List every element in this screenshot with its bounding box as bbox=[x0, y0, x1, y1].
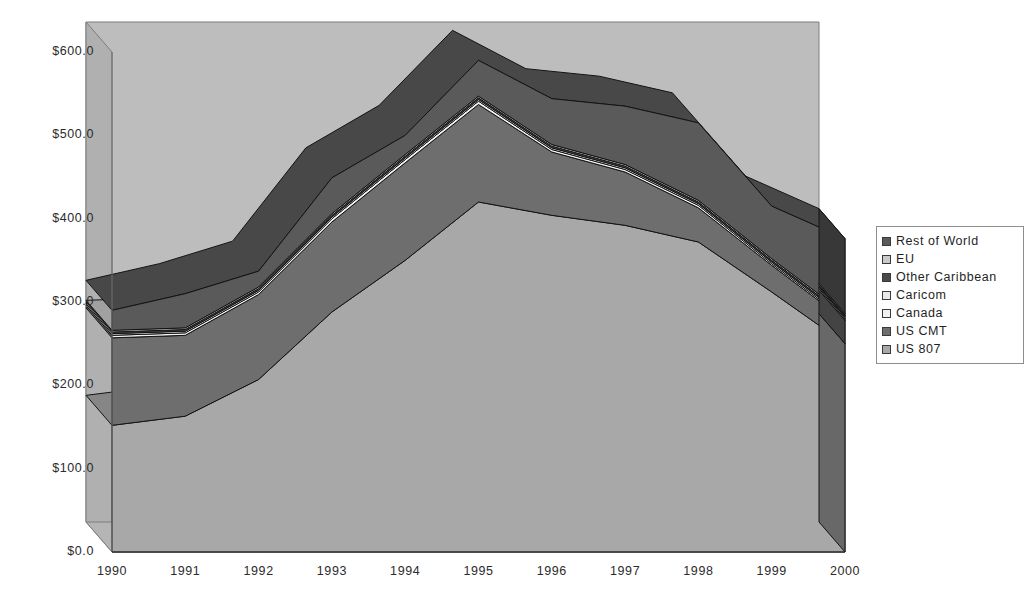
legend-swatch-icon bbox=[882, 327, 891, 336]
y-tick-label: $400.0 bbox=[18, 211, 94, 225]
x-tick-label: 1999 bbox=[742, 564, 802, 578]
y-tick-label: $300.0 bbox=[18, 294, 94, 308]
legend-swatch-icon bbox=[882, 273, 891, 282]
x-tick-label: 1993 bbox=[302, 564, 362, 578]
legend-label: Canada bbox=[896, 306, 943, 320]
legend-item[interactable]: US 807 bbox=[882, 340, 1019, 358]
legend-item[interactable]: Rest of World bbox=[882, 232, 1019, 250]
x-tick-label: 1991 bbox=[155, 564, 215, 578]
y-tick-label: $100.0 bbox=[18, 461, 94, 475]
x-tick-label: 1997 bbox=[595, 564, 655, 578]
legend-label: US CMT bbox=[896, 324, 947, 338]
legend-swatch-icon bbox=[882, 237, 891, 246]
y-tick-label: $200.0 bbox=[18, 377, 94, 391]
x-tick-label: 1992 bbox=[229, 564, 289, 578]
legend-label: Other Caribbean bbox=[896, 270, 997, 284]
legend-swatch-icon bbox=[882, 345, 891, 354]
legend-item[interactable]: Other Caribbean bbox=[882, 268, 1019, 286]
stacked-area-chart: $0.0$100.0$200.0$300.0$400.0$500.0$600.0… bbox=[0, 0, 1032, 611]
y-tick-label: $0.0 bbox=[18, 544, 94, 558]
series-end-cap bbox=[819, 314, 845, 552]
x-tick-label: 1995 bbox=[449, 564, 509, 578]
legend-swatch-icon bbox=[882, 255, 891, 264]
x-tick-label: 1998 bbox=[668, 564, 728, 578]
legend-label: US 807 bbox=[896, 342, 941, 356]
x-tick-label: 1994 bbox=[375, 564, 435, 578]
y-tick-label: $500.0 bbox=[18, 127, 94, 141]
legend-label: Caricom bbox=[896, 288, 946, 302]
legend-item[interactable]: EU bbox=[882, 250, 1019, 268]
y-tick-label: $600.0 bbox=[18, 44, 94, 58]
legend-item[interactable]: US CMT bbox=[882, 322, 1019, 340]
x-tick-label: 1990 bbox=[82, 564, 142, 578]
legend-label: EU bbox=[896, 252, 914, 266]
legend-item[interactable]: Canada bbox=[882, 304, 1019, 322]
legend-label: Rest of World bbox=[896, 234, 979, 248]
x-tick-label: 2000 bbox=[815, 564, 875, 578]
chart-legend: Rest of WorldEUOther CaribbeanCaricomCan… bbox=[876, 226, 1024, 364]
legend-swatch-icon bbox=[882, 309, 891, 318]
x-tick-label: 1996 bbox=[522, 564, 582, 578]
legend-swatch-icon bbox=[882, 291, 891, 300]
legend-item[interactable]: Caricom bbox=[882, 286, 1019, 304]
